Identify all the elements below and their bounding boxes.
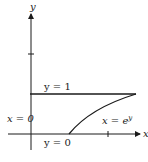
label-y-equals-0: y = 0 bbox=[43, 137, 71, 148]
label-x-equals-0: x = 0 bbox=[7, 113, 34, 124]
label-y-equals-1: y = 1 bbox=[43, 81, 71, 92]
y-axis-label: y bbox=[29, 1, 36, 12]
label-curve: x = ey bbox=[102, 114, 133, 126]
curve-x-equals-e-y bbox=[69, 94, 136, 134]
region-diagram: y x y = 1 x = 0 y = 0 x = ey bbox=[0, 0, 148, 162]
x-axis-label: x bbox=[143, 128, 148, 139]
